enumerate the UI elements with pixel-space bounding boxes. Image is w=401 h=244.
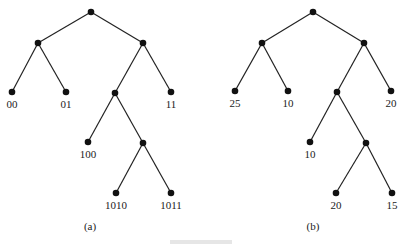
subfigure-caption: (a) xyxy=(84,220,97,233)
node-label: 20 xyxy=(331,199,343,211)
leaf-node xyxy=(63,89,70,96)
tree-edge xyxy=(143,43,171,92)
tree-edge xyxy=(143,143,171,193)
internal-node xyxy=(35,40,42,47)
tree-edge xyxy=(38,43,66,92)
node-label: 00 xyxy=(7,98,19,110)
tree-edge xyxy=(262,43,288,91)
node-label: 01 xyxy=(61,98,72,110)
leaf-node xyxy=(168,190,175,197)
leaf-node xyxy=(232,88,239,95)
leaf-node xyxy=(9,89,16,96)
tree-edge xyxy=(313,12,364,43)
node-label: 20 xyxy=(386,97,398,109)
internal-node xyxy=(334,89,341,96)
internal-node xyxy=(112,90,119,97)
subfigure-caption: (b) xyxy=(307,220,320,233)
node-label: 25 xyxy=(230,97,242,109)
tree-edge xyxy=(38,12,91,43)
leaf-node xyxy=(388,88,395,95)
internal-node xyxy=(361,40,368,47)
internal-node xyxy=(140,40,147,47)
node-label: 10 xyxy=(283,97,295,109)
internal-node xyxy=(140,140,147,147)
leaf-node xyxy=(113,190,120,197)
tree-edge xyxy=(262,12,313,43)
leaf-node xyxy=(333,190,340,197)
tree-edge xyxy=(91,12,143,43)
node-label: 11 xyxy=(166,98,177,110)
tree-edge xyxy=(337,92,366,143)
tree-edge xyxy=(336,143,366,193)
tree-edge xyxy=(364,43,391,91)
internal-node xyxy=(259,40,266,47)
internal-node xyxy=(363,140,370,147)
tree-edge xyxy=(116,143,143,193)
leaf-node xyxy=(168,89,175,96)
internal-node xyxy=(310,9,317,16)
leaf-node xyxy=(389,190,396,197)
node-label: 15 xyxy=(387,199,399,211)
tree-b-weights: 251020102015(b) xyxy=(230,9,399,233)
tree-edge xyxy=(366,143,392,193)
node-label: 10 xyxy=(305,148,317,160)
internal-node xyxy=(88,9,95,16)
tree-edge xyxy=(12,43,38,92)
leaf-node xyxy=(85,139,92,146)
faint-cropped-caption xyxy=(170,240,232,244)
tree-edge xyxy=(235,43,262,91)
binary-tree-diagram: 00011110010101011(a) 251020102015(b) xyxy=(0,0,401,244)
node-label: 1010 xyxy=(105,199,128,211)
node-label: 1011 xyxy=(160,199,182,211)
tree-a-codes: 00011110010101011(a) xyxy=(7,9,182,233)
tree-edge xyxy=(88,93,115,142)
tree-edge xyxy=(337,43,364,92)
tree-edge xyxy=(115,43,143,93)
tree-edge xyxy=(310,92,337,142)
tree-edge xyxy=(115,93,143,143)
node-label: 100 xyxy=(80,148,97,160)
leaf-node xyxy=(285,88,292,95)
leaf-node xyxy=(307,139,314,146)
